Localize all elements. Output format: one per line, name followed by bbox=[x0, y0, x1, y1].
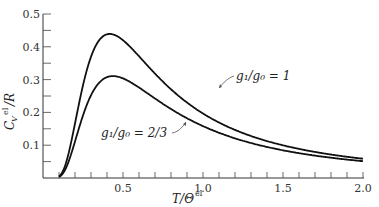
x-tick-label: 0.5 bbox=[114, 182, 132, 195]
svg-text:/R: /R bbox=[3, 93, 17, 107]
annotation-ratio-2-3: g₁/g₀ = 2/3 bbox=[101, 126, 167, 140]
svg-text:T/Θ: T/Θ bbox=[172, 192, 194, 206]
svg-text:el: el bbox=[195, 189, 203, 198]
y-tick-label: 0.3 bbox=[23, 74, 41, 87]
x-tick-label: 2.0 bbox=[354, 182, 372, 195]
y-axis: 0.10.20.30.40.5 bbox=[23, 8, 52, 178]
x-tick-label: 1.5 bbox=[274, 182, 292, 195]
svg-text:V: V bbox=[10, 115, 19, 122]
x-axis-title: T/Θ el bbox=[172, 189, 203, 206]
y-axis-title: C V el /R bbox=[1, 93, 19, 130]
y-tick-label: 0.1 bbox=[23, 139, 41, 152]
y-tick-label: 0.2 bbox=[23, 106, 41, 119]
svg-text:el: el bbox=[1, 107, 10, 115]
chart: 0.10.20.30.40.5 0.51.01.52.0 g₁/g₀ = 1 g… bbox=[0, 0, 379, 207]
y-tick-label: 0.5 bbox=[23, 8, 41, 21]
x-axis: 0.51.01.52.0 bbox=[43, 172, 372, 195]
annotation-ratio-1: g₁/g₀ = 1 bbox=[236, 69, 290, 83]
y-tick-label: 0.4 bbox=[23, 41, 41, 54]
